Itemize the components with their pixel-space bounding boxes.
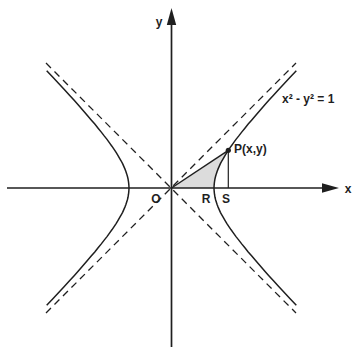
point-r-label: R	[202, 192, 211, 206]
equation-label: x² - y² = 1	[282, 92, 335, 106]
y-axis-label: y	[156, 15, 163, 29]
origin-label: O	[151, 192, 160, 206]
point-s-label: S	[222, 192, 230, 206]
hyperbola-figure: y x O R S P(x,y) x² - y² = 1	[0, 0, 362, 350]
x-axis-arrow-icon	[322, 183, 339, 193]
y-axis-arrow-icon	[167, 8, 176, 25]
diagram-canvas: y x O R S P(x,y) x² - y² = 1	[0, 0, 362, 350]
x-axis-label: x	[345, 182, 352, 196]
point-p-label: P(x,y)	[234, 142, 267, 156]
point-p-dot	[226, 148, 231, 153]
